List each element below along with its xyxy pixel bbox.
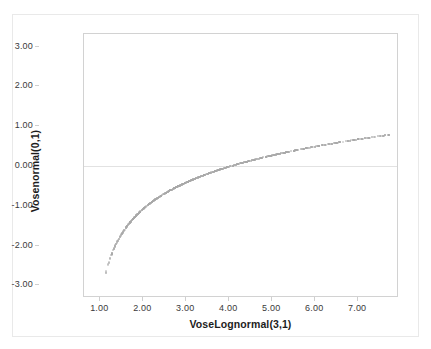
scatter-point	[237, 163, 239, 165]
chart-figure: 3.002.001.000.00-1.00-2.00-3.00 1.002.00…	[12, 14, 419, 337]
scatter-point	[125, 227, 127, 229]
scatter-point	[317, 145, 319, 147]
scatter-point	[245, 161, 247, 163]
scatter-point	[265, 156, 267, 158]
scatter-point	[367, 137, 369, 139]
scatter-point	[347, 140, 349, 142]
scatter-point	[382, 135, 384, 137]
x-tick-label: 3.00	[165, 303, 205, 313]
y-tick-label: 3.00	[0, 41, 33, 51]
scatter-point	[105, 272, 107, 274]
x-tick-label: 5.00	[251, 303, 291, 313]
scatter-point	[336, 142, 338, 144]
scatter-point	[324, 144, 326, 146]
scatter-point	[128, 223, 130, 225]
zero-gridline	[84, 166, 397, 167]
scatter-point	[273, 154, 275, 156]
x-tick-label: 4.00	[208, 303, 248, 313]
scatter-point	[240, 162, 242, 164]
x-tick-mark	[357, 297, 358, 301]
x-tick-label: 2.00	[122, 303, 162, 313]
scatter-point	[235, 164, 237, 166]
scatter-point	[138, 212, 140, 214]
x-tick-mark	[271, 297, 272, 301]
x-tick-mark	[99, 297, 100, 301]
scatter-point	[213, 171, 215, 173]
scatter-point	[349, 140, 351, 142]
scatter-point	[194, 178, 196, 180]
scatter-point	[250, 160, 252, 162]
scatter-point	[219, 169, 221, 171]
scatter-point	[314, 146, 316, 148]
x-axis-title: VoseLognormal(3,1)	[83, 318, 398, 330]
scatter-point	[279, 153, 281, 155]
y-tick-label: -3.00	[0, 279, 33, 289]
scatter-point	[388, 134, 390, 136]
scatter-point	[290, 150, 292, 152]
x-tick-mark	[314, 297, 315, 301]
y-axis-ticks: 3.002.001.000.00-1.00-2.00-3.00	[13, 15, 83, 315]
scatter-point	[113, 248, 115, 250]
x-tick-label: 7.00	[337, 303, 377, 313]
y-axis-title: Vosenormal(0,1)	[29, 86, 41, 256]
x-tick-mark	[142, 297, 143, 301]
scatter-point	[160, 195, 162, 197]
plot-area	[83, 33, 398, 297]
scatter-point	[258, 158, 260, 160]
scatter-point	[379, 135, 381, 137]
y-tick-mark	[35, 284, 39, 285]
y-tick-mark	[35, 46, 39, 47]
scatter-point	[353, 139, 355, 141]
scatter-point	[188, 180, 190, 182]
scatter-point	[165, 192, 167, 194]
scatter-point	[198, 176, 200, 178]
scatter-point	[203, 174, 205, 176]
scatter-point	[183, 183, 185, 185]
scatter-point	[121, 233, 123, 235]
scatter-point	[107, 264, 109, 266]
scatter-point	[302, 148, 304, 150]
x-tick-mark	[228, 297, 229, 301]
scatter-point	[342, 141, 344, 143]
scatter-point	[232, 165, 234, 167]
scatter-point	[207, 173, 209, 175]
x-tick-label: 1.00	[79, 303, 119, 313]
x-tick-label: 6.00	[294, 303, 334, 313]
scatter-point	[297, 149, 299, 151]
x-tick-mark	[185, 297, 186, 301]
